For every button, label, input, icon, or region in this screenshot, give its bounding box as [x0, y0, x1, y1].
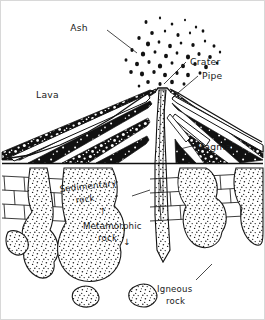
crater-leader — [164, 62, 186, 84]
igneous-leader — [196, 264, 212, 280]
sedimentary-leader — [132, 190, 150, 196]
pipe-leader — [172, 76, 198, 98]
label-pipe: Pipe — [202, 70, 223, 81]
diagram-canvas: Ash Crater Pipe Lava Magma Sedimentary r… — [0, 0, 265, 320]
down-arrow-icon: ↓ — [123, 237, 130, 247]
label-lava: Lava — [36, 89, 59, 100]
ash-leader — [107, 30, 137, 53]
label-sedimentary-line2: rock — [75, 193, 95, 205]
up-arrow-icon: ↑ — [99, 206, 106, 216]
volcano-diagram: Ash Crater Pipe Lava Magma Sedimentary r… — [0, 0, 265, 320]
label-igneous-line1: Igneous — [157, 284, 193, 294]
label-metamorphic-line1: Metamorphic — [83, 221, 142, 231]
label-igneous-line2: rock — [166, 296, 185, 306]
label-ash: Ash — [70, 22, 88, 33]
label-magma: Magma — [196, 141, 231, 152]
label-crater: Crater — [190, 56, 221, 67]
label-metamorphic-line2: rock — [98, 233, 117, 243]
